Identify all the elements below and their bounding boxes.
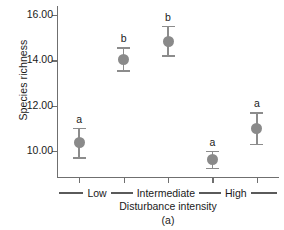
x-group-intermediate: Intermediate (133, 187, 199, 199)
x-group-label: Low (83, 187, 110, 199)
group-rule (59, 192, 83, 193)
error-bar-cap-upper (73, 128, 86, 130)
error-bar-cap-lower (250, 144, 263, 146)
significance-letter: a (69, 113, 89, 125)
error-bar-cap-upper (117, 47, 130, 49)
x-tick-mark (124, 178, 125, 183)
data-point-marker (163, 36, 174, 47)
error-bar-cap-lower (206, 168, 219, 170)
error-bar-cap-lower (162, 55, 175, 57)
significance-letter: b (158, 11, 178, 23)
x-tick-mark (79, 178, 80, 183)
panel-label: (a) (57, 214, 279, 226)
x-axis-group-band: LowIntermediateHigh (57, 186, 279, 200)
x-tick-mark (212, 178, 213, 183)
significance-letter: b (114, 32, 134, 44)
error-bar-cap-upper (162, 26, 175, 28)
species-richness-chart: Species richness 10.0012.0014.0016.00abb… (0, 0, 284, 230)
y-tick-label: 14.00 (27, 53, 53, 65)
x-tick-mark (257, 178, 258, 183)
error-bar-cap-lower (73, 157, 86, 159)
y-axis-line (57, 6, 58, 178)
x-tick-mark (168, 178, 169, 183)
group-rule (251, 192, 277, 193)
significance-letter: a (247, 97, 267, 109)
x-group-label: High (221, 187, 251, 199)
data-point-marker (207, 154, 218, 165)
y-axis-title: Species richness (17, 10, 29, 150)
error-bar-cap-upper (206, 151, 219, 153)
data-point-marker (74, 137, 85, 148)
group-rule (199, 192, 221, 193)
y-tick-label: 10.00 (27, 144, 53, 156)
y-tick-label: 12.00 (27, 99, 53, 111)
group-rule (111, 192, 133, 193)
error-bar-cap-lower (117, 70, 130, 72)
x-group-high: High (221, 187, 251, 199)
error-bar-cap-upper (250, 112, 263, 114)
plot-area: 10.0012.0014.0016.00abbaa (57, 6, 279, 178)
y-tick-label: 16.00 (27, 8, 53, 20)
significance-letter: a (202, 136, 222, 148)
x-axis-title: Disturbance intensity (57, 200, 279, 212)
data-point-marker (251, 123, 262, 134)
data-point-marker (118, 54, 129, 65)
x-group-label: Intermediate (133, 187, 199, 199)
x-group-low: Low (83, 187, 110, 199)
